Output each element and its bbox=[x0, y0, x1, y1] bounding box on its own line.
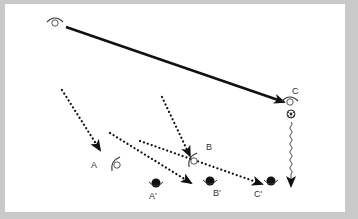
dotted-arrow-2 bbox=[162, 97, 190, 156]
observer-label-C: C bbox=[292, 86, 299, 96]
dotted-arrow-3 bbox=[110, 133, 191, 183]
observer-origin bbox=[47, 18, 63, 26]
observer-label-B: B bbox=[206, 142, 212, 152]
observer-C: C bbox=[282, 86, 299, 105]
observer-label-C-prime: C' bbox=[254, 189, 262, 199]
diagram-canvas: CABA'B'C' bbox=[0, 0, 358, 219]
observer-label-A: A bbox=[91, 160, 97, 170]
wavy-arrow bbox=[290, 122, 293, 186]
solid-arrow bbox=[66, 27, 284, 102]
solid-line-arrow bbox=[66, 27, 284, 102]
ball-icon bbox=[287, 110, 295, 118]
observer-C-prime: C' bbox=[254, 177, 278, 200]
wavy-ball-path bbox=[290, 122, 293, 186]
observer-A-prime: A' bbox=[149, 179, 163, 202]
observer-B-prime: B' bbox=[203, 177, 221, 199]
dotted-arrow-1 bbox=[62, 90, 100, 150]
observer-label-A-prime: A' bbox=[149, 191, 157, 201]
observers: CABA'B'C' bbox=[47, 18, 299, 201]
observer-A: A bbox=[91, 157, 120, 171]
observer-label-B-prime: B' bbox=[213, 188, 221, 198]
observer-B: B bbox=[189, 142, 212, 167]
